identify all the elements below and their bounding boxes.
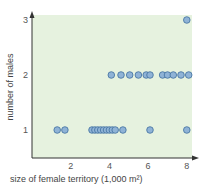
data-point: [185, 72, 192, 79]
y-tick-labels: 123: [23, 15, 28, 135]
data-point: [62, 127, 69, 134]
y-tick-label: 2: [23, 70, 28, 80]
x-tick-label: 8: [184, 161, 189, 171]
x-axis-arrow-icon: [192, 156, 199, 161]
scatter-chart: 2468 123 size of female territory (1,000…: [0, 0, 207, 186]
data-point: [108, 72, 115, 79]
data-point: [147, 127, 154, 134]
y-axis-label: number of males: [5, 53, 15, 121]
data-point: [120, 127, 127, 134]
data-point: [147, 72, 154, 79]
data-point: [184, 17, 191, 24]
y-tick-label: 3: [23, 15, 28, 25]
data-point: [118, 72, 125, 79]
x-axis-label: size of female territory (1,000 m²): [10, 174, 143, 184]
data-point: [184, 127, 191, 134]
plot-area: [32, 15, 192, 158]
y-axis-arrow-icon: [30, 11, 35, 18]
x-tick-label: 2: [68, 161, 73, 171]
data-point: [54, 127, 61, 134]
x-tick-label: 6: [146, 161, 151, 171]
x-tick-label: 4: [107, 161, 112, 171]
x-tick-labels: 2468: [68, 161, 189, 171]
data-point: [126, 72, 133, 79]
data-point: [135, 72, 142, 79]
data-point: [178, 72, 185, 79]
data-point: [170, 72, 177, 79]
y-tick-label: 1: [23, 125, 28, 135]
data-point: [112, 127, 119, 134]
